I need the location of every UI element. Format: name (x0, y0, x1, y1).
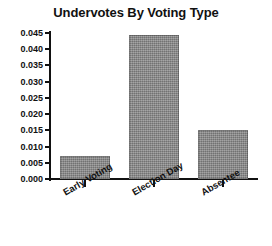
y-axis-tick (45, 48, 50, 50)
y-axis-tick (45, 129, 50, 131)
y-axis-tick-label: 0.010 (20, 142, 43, 152)
plot-area: 0.0000.0050.0100.0150.0200.0250.0300.035… (50, 33, 258, 179)
y-axis-tick (45, 146, 50, 148)
bar-absentee (198, 130, 248, 179)
y-axis-tick (45, 97, 50, 99)
y-axis-tick-label: 0.005 (20, 158, 43, 168)
y-axis-tick (45, 32, 50, 34)
chart-container: Undervotes By Voting Type 0.0000.0050.01… (0, 0, 272, 246)
y-axis-tick-label: 0.030 (20, 77, 43, 87)
y-axis-tick (45, 64, 50, 66)
y-axis-tick (45, 178, 50, 180)
y-axis-tick (45, 113, 50, 115)
y-axis-tick-label: 0.035 (20, 60, 43, 70)
y-axis-tick (45, 81, 50, 83)
y-axis-tick-label: 0.045 (20, 28, 43, 38)
y-axis-tick-label: 0.000 (20, 174, 43, 184)
chart-title: Undervotes By Voting Type (0, 5, 272, 20)
y-axis-tick-label: 0.015 (20, 125, 43, 135)
y-axis-tick-label: 0.025 (20, 93, 43, 103)
y-axis-tick (45, 162, 50, 164)
y-axis-tick-label: 0.020 (20, 109, 43, 119)
bar-election-day (129, 35, 179, 179)
y-axis-tick-label: 0.040 (20, 44, 43, 54)
